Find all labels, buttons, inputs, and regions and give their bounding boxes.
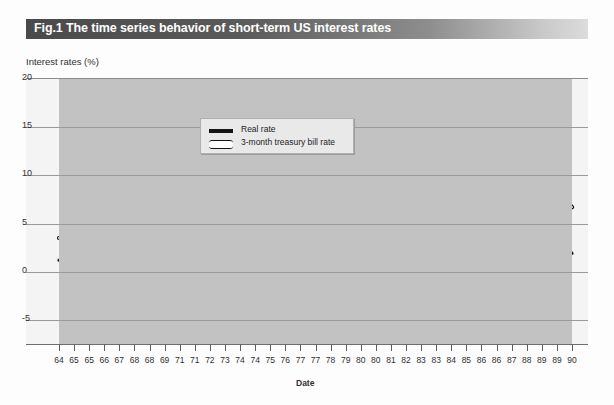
- legend-label-tbill-rate: 3-month treasury bill rate: [241, 137, 335, 147]
- x-tick-label: 86: [492, 355, 501, 365]
- x-tick-mark: [376, 344, 377, 351]
- x-tick-label: 68: [130, 355, 139, 365]
- x-tick-mark: [89, 344, 90, 351]
- x-tick-mark: [316, 344, 317, 351]
- x-tick-mark: [270, 344, 271, 351]
- gridline: [26, 272, 588, 273]
- x-tick-label: 64: [54, 355, 63, 365]
- x-tick-label: 78: [326, 355, 335, 365]
- x-tick-label: 75: [266, 355, 275, 365]
- x-tick-mark: [225, 344, 226, 351]
- x-tick-label: 89: [552, 355, 561, 365]
- x-tick-label: 73: [220, 355, 229, 365]
- x-tick-mark: [451, 344, 452, 351]
- x-tick-label: 83: [431, 355, 440, 365]
- figure-container: Fig.1 The time series behavior of short-…: [0, 0, 614, 405]
- x-tick-mark: [421, 344, 422, 351]
- x-tick-label: 77: [296, 355, 305, 365]
- x-tick-label: 65: [84, 355, 93, 365]
- x-tick-mark: [150, 344, 151, 351]
- x-tick-mark: [331, 344, 332, 351]
- gridline: [26, 175, 588, 176]
- x-tick-label: 85: [462, 355, 471, 365]
- x-tick-label: 67: [115, 355, 124, 365]
- x-tick-label: 71: [175, 355, 184, 365]
- x-tick-label: 69: [160, 355, 169, 365]
- x-tick-mark: [542, 344, 543, 351]
- chart-legend: Real rate 3-month treasury bill rate: [200, 118, 354, 154]
- x-tick-mark: [180, 344, 181, 351]
- legend-swatch-hollow-icon: [209, 140, 233, 149]
- x-axis-label: Date: [296, 378, 314, 388]
- figure-title-banner: Fig.1 The time series behavior of short-…: [26, 19, 588, 39]
- x-tick-label: 74: [250, 355, 259, 365]
- legend-swatch-solid-icon: [209, 129, 233, 133]
- x-tick-label: 83: [416, 355, 425, 365]
- x-tick-mark: [512, 344, 513, 351]
- x-tick-mark: [119, 344, 120, 351]
- x-tick-mark: [497, 344, 498, 351]
- x-tick-label: 65: [69, 355, 78, 365]
- y-axis-label: Interest rates (%): [26, 56, 99, 67]
- x-tick-mark: [300, 344, 301, 351]
- x-tick-mark: [391, 344, 392, 351]
- x-tick-label: 81: [386, 355, 395, 365]
- x-tick-label: 86: [477, 355, 486, 365]
- x-tick-mark: [210, 344, 211, 351]
- x-tick-label: 71: [190, 355, 199, 365]
- x-tick-mark: [481, 344, 482, 351]
- x-tick-mark: [255, 344, 256, 351]
- x-tick-mark: [134, 344, 135, 351]
- x-tick-label: 66: [100, 355, 109, 365]
- y-tick-label: 0: [22, 265, 46, 275]
- x-tick-label: 72: [205, 355, 214, 365]
- legend-label-real-rate: Real rate: [241, 124, 276, 134]
- x-tick-label: 80: [371, 355, 380, 365]
- x-tick-mark: [346, 344, 347, 351]
- x-tick-mark: [361, 344, 362, 351]
- x-tick-mark: [572, 344, 573, 351]
- x-tick-label: 74: [235, 355, 244, 365]
- y-tick-label: 20: [22, 72, 46, 82]
- y-tick-label: 5: [22, 217, 46, 227]
- x-tick-label: 82: [401, 355, 410, 365]
- x-tick-label: 68: [145, 355, 154, 365]
- x-tick-mark: [466, 344, 467, 351]
- x-tick-mark: [240, 344, 241, 351]
- y-tick-label: 10: [22, 168, 46, 178]
- x-tick-label: 76: [281, 355, 290, 365]
- x-axis-ticks: [26, 344, 588, 352]
- y-tick-label: 15: [22, 120, 46, 130]
- x-tick-mark: [195, 344, 196, 351]
- x-tick-label: 87: [507, 355, 516, 365]
- x-tick-mark: [527, 344, 528, 351]
- x-tick-mark: [104, 344, 105, 351]
- x-tick-mark: [406, 344, 407, 351]
- gridline: [26, 224, 588, 225]
- x-tick-label: 89: [537, 355, 546, 365]
- page-title: Fig.1 The time series behavior of short-…: [34, 21, 391, 35]
- x-tick-mark: [436, 344, 437, 351]
- x-tick-mark: [165, 344, 166, 351]
- x-tick-mark: [59, 344, 60, 351]
- x-tick-label: 84: [447, 355, 456, 365]
- x-tick-label: 77: [311, 355, 320, 365]
- y-tick-label: -5: [22, 313, 46, 323]
- x-tick-mark: [285, 344, 286, 351]
- x-tick-label: 88: [522, 355, 531, 365]
- x-tick-label: 80: [356, 355, 365, 365]
- x-tick-label: 90: [567, 355, 576, 365]
- x-tick-label: 79: [341, 355, 350, 365]
- x-axis-tick-labels: 6465656667686869717172737474757677777879…: [26, 355, 588, 369]
- x-tick-mark: [557, 344, 558, 351]
- x-tick-mark: [74, 344, 75, 351]
- gridline: [26, 320, 588, 321]
